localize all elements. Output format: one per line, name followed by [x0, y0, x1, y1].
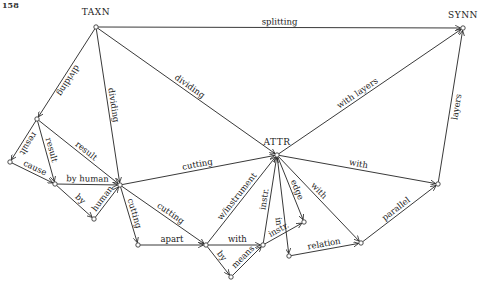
edge-label: with: [309, 180, 330, 201]
edge-label: with: [228, 234, 247, 244]
edge-label: dividing: [173, 72, 208, 101]
node-n_k: [287, 254, 291, 258]
node-attr: [275, 153, 279, 157]
edge-label: parallel: [380, 195, 412, 223]
edge-label: by human: [66, 173, 109, 184]
node-n_e: [118, 183, 122, 187]
node-n_l: [359, 241, 363, 245]
node-taxn: [94, 25, 98, 29]
node-n_c: [53, 182, 57, 186]
edge-ATTR-to-n_k: [277, 157, 288, 253]
edge-label: w/instrument: [215, 170, 259, 222]
node-label-synn: SYNN: [448, 10, 478, 20]
node-synn: [461, 26, 465, 30]
edge-label: dividing: [55, 64, 82, 99]
semantic-network-diagram: 158 splittingdividingdividingdividingres…: [0, 0, 480, 287]
node-label-taxn: TAXN: [82, 7, 110, 17]
node-n_f: [136, 243, 140, 247]
node-n_h: [229, 275, 233, 279]
edge-TAXN-to-SYNN: [98, 27, 460, 28]
node-n_g: [204, 243, 208, 247]
edge-label: dividing: [106, 87, 121, 123]
edge-label: with layers: [335, 75, 380, 110]
edge-label: by: [215, 249, 229, 263]
edge-n_c-to-n_d: [57, 185, 92, 217]
node-n_i: [261, 243, 265, 247]
edge-TAXN-to-n_a: [38, 29, 94, 117]
edge-n_l-to-n_m: [363, 186, 436, 242]
edge-label: means: [229, 243, 256, 270]
node-n_b: [8, 160, 12, 164]
edge-label: splitting: [262, 16, 298, 26]
edge-label: apart: [160, 234, 184, 244]
node-label-attr: ATTR: [263, 137, 291, 147]
edge-label: cutting: [181, 156, 214, 172]
edge-label: result: [17, 130, 39, 157]
edge-ATTR-to-SYNN: [279, 30, 461, 154]
page-number: 158: [2, 0, 19, 10]
node-n_j: [302, 220, 306, 224]
edge-label: by: [73, 192, 87, 206]
edge-TAXN-to-ATTR: [98, 28, 275, 153]
node-n_d: [92, 217, 96, 221]
node-n_m: [436, 182, 440, 186]
node-n_a: [35, 117, 39, 121]
edge-ATTR-to-n_l: [279, 157, 360, 241]
edge-labels-layer: splittingdividingdividingdividingresultr…: [17, 16, 463, 270]
edge-label: relation: [307, 236, 342, 252]
